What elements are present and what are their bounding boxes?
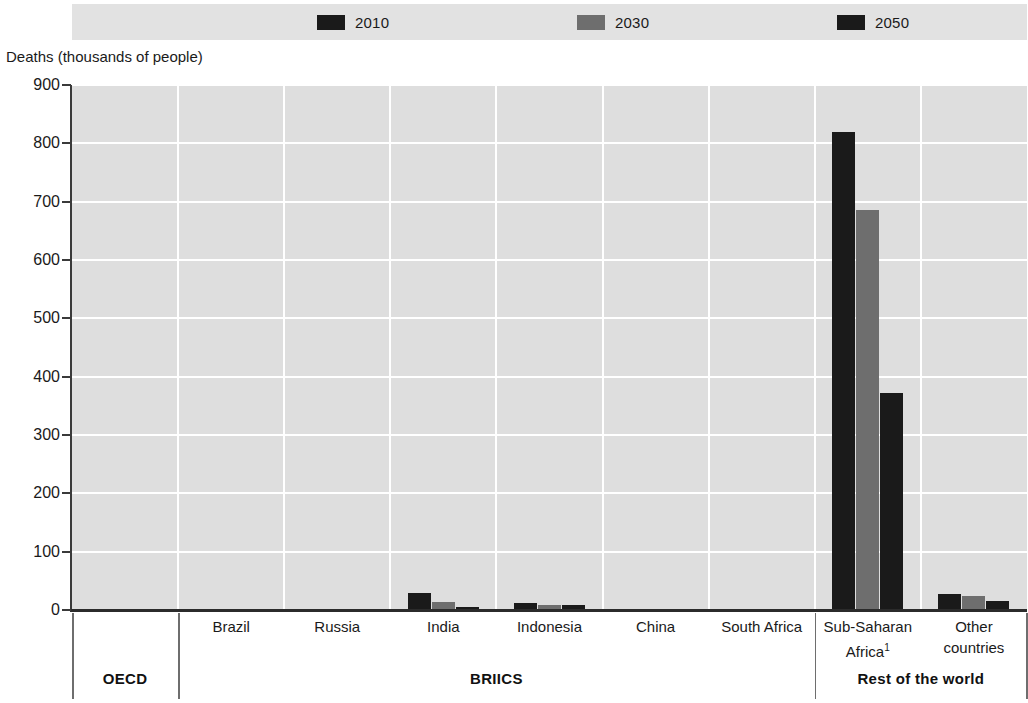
separator-briics-rest — [815, 613, 817, 699]
gridline-horizontal — [72, 259, 1027, 261]
category-label-china: China — [603, 616, 709, 637]
category-label-russia: Russia — [284, 616, 390, 637]
separator-left-edge — [72, 613, 74, 699]
footnote-marker: 1 — [884, 642, 890, 653]
y-axis-tick-label: 100 — [4, 543, 60, 561]
y-axis-tick — [62, 142, 71, 144]
gridline-horizontal — [72, 201, 1027, 203]
category-label-south-africa: South Africa — [709, 616, 815, 637]
group-label-rest-of-the-world: Rest of the world — [815, 670, 1027, 687]
legend-item-label: 2010 — [355, 15, 389, 30]
y-axis-tick-label: 400 — [4, 368, 60, 386]
category-label-other-countries: Othercountries — [921, 616, 1027, 658]
y-axis-tick — [62, 201, 71, 203]
gridline-vertical — [920, 85, 922, 610]
y-axis-line — [70, 85, 72, 611]
group-label-briics: BRIICS — [178, 670, 815, 687]
category-labels: BrazilRussiaIndiaIndonesiaChinaSouth Afr… — [72, 612, 1027, 660]
y-axis-tick-label: 600 — [4, 251, 60, 269]
y-axis-tick — [62, 434, 71, 436]
y-axis-tick-label: 700 — [4, 193, 60, 211]
y-axis-tick — [62, 317, 71, 319]
gridline-horizontal — [72, 317, 1027, 319]
y-axis-tick-label: 200 — [4, 484, 60, 502]
legend-swatch-icon — [837, 15, 865, 30]
bar-india-2010 — [408, 593, 431, 611]
y-axis-tick-label: 500 — [4, 309, 60, 327]
gridline-vertical — [602, 85, 604, 610]
plot-area — [72, 85, 1027, 610]
gridline-vertical — [283, 85, 285, 610]
gridline-vertical — [389, 85, 391, 610]
legend-swatch-icon — [577, 15, 605, 30]
separator-oecd-briics — [178, 613, 180, 699]
category-label-brazil: Brazil — [178, 616, 284, 637]
y-axis-tick-label: 900 — [4, 76, 60, 94]
category-label-sub-saharan-africa: Sub-SaharanAfrica1 — [815, 616, 921, 662]
gridline-horizontal — [72, 376, 1027, 378]
y-axis-tick — [62, 492, 71, 494]
y-axis-tick — [62, 376, 71, 378]
separator-right-edge — [1026, 613, 1028, 699]
y-axis-tick — [62, 609, 71, 611]
gridline-horizontal — [72, 85, 1027, 86]
legend-swatch-icon — [317, 15, 345, 30]
y-axis-tick-label: 300 — [4, 426, 60, 444]
legend-item-label: 2050 — [875, 15, 909, 30]
gridline-vertical — [814, 85, 816, 610]
gridline-horizontal — [72, 142, 1027, 144]
y-axis-tick — [62, 84, 71, 86]
group-labels: OECDBRIICSRest of the world — [72, 662, 1027, 703]
category-label-indonesia: Indonesia — [496, 616, 602, 637]
y-axis-tick-label: 0 — [4, 601, 60, 619]
legend: 201020302050 — [72, 4, 1027, 40]
gridline-vertical — [495, 85, 497, 610]
y-axis-labels: 0100200300400500600700800900 — [0, 85, 60, 611]
group-label-oecd: OECD — [72, 670, 178, 687]
gridline-vertical — [708, 85, 710, 610]
y-axis-tick-label: 800 — [4, 134, 60, 152]
category-label-india: India — [390, 616, 496, 637]
y-axis-tick — [62, 551, 71, 553]
bar-sub-saharan-africa-2050 — [880, 393, 903, 610]
bar-sub-saharan-africa-2030 — [856, 210, 879, 610]
legend-item-label: 2030 — [615, 15, 649, 30]
bar-other-countries-2010 — [938, 594, 961, 610]
gridline-vertical — [177, 85, 179, 610]
legend-item-2030: 2030 — [577, 13, 649, 31]
legend-item-2050: 2050 — [837, 13, 909, 31]
legend-item-2010: 2010 — [317, 13, 389, 31]
bar-other-countries-2030 — [962, 596, 985, 610]
y-axis-title: Deaths (thousands of people) — [6, 48, 203, 65]
bar-sub-saharan-africa-2010 — [832, 132, 855, 610]
y-axis-tick — [62, 259, 71, 261]
